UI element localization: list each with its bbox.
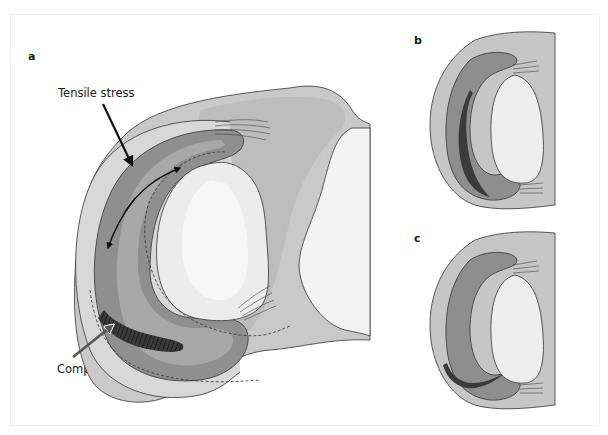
panel-c-illustration [425,225,595,415]
panel-b-illustration [425,25,595,215]
